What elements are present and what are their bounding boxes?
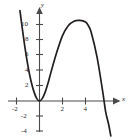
x-tick-label-2: 2 — [61, 106, 65, 113]
y-tick-label-8: 8 — [25, 36, 29, 43]
y-tick-label-6: 6 — [25, 51, 29, 58]
y-tick-label-10: 10 — [21, 21, 28, 28]
x-tick-label-4: 4 — [84, 106, 88, 113]
x-tick-label-neg2: -2 — [12, 106, 18, 113]
plot-canvas — [0, 0, 129, 139]
y-tick-label-2: 2 — [25, 82, 29, 89]
graph-figure: 10 8 6 4 2 -2 -4 -2 2 4 y x — [0, 0, 129, 139]
y-tick-label-4: 4 — [25, 67, 29, 74]
y-tick-label-neg2: -2 — [21, 113, 27, 120]
x-axis-label: x — [122, 96, 125, 103]
y-axis-label: y — [41, 2, 44, 9]
curve-path — [20, 11, 111, 136]
y-tick-label-neg4: -4 — [21, 128, 27, 135]
